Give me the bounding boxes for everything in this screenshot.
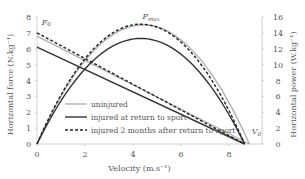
x-tick-label: 0: [34, 150, 39, 159]
right-tick-label: 2: [275, 124, 280, 133]
annotation-subscript: max: [148, 16, 160, 22]
left-tick-label: 6: [26, 45, 31, 54]
right-tick-label: 10: [273, 61, 283, 70]
x-tick-label: 8: [226, 150, 231, 159]
left-tick-label: 1: [26, 124, 31, 133]
annotation-subscript: 0: [258, 131, 262, 137]
left-tick-label: 3: [26, 92, 31, 101]
legend: uninjuredinjured at return to sportinjur…: [65, 100, 235, 135]
left-tick-label: 5: [26, 61, 31, 70]
x-axis-title: Velocity (m.s⁻¹): [107, 164, 170, 173]
chart-svg: 024680123456780246810121416Velocity (m.s…: [0, 0, 305, 179]
right-tick-label: 16: [273, 13, 283, 22]
left-tick-label: 2: [26, 108, 31, 117]
x-tick-label: 4: [130, 150, 135, 159]
annotation-2: V0: [252, 127, 262, 137]
left-axis-title: Horizontal force (N.kg⁻¹): [6, 34, 15, 135]
force-velocity-power-chart: 024680123456780246810121416Velocity (m.s…: [0, 0, 305, 179]
right-axis-title: Horizontal power (W.kg⁻¹): [289, 31, 298, 137]
annotation-subscript: 0: [47, 21, 51, 27]
right-tick-label: 12: [273, 45, 283, 54]
legend-label-0: uninjured: [91, 100, 128, 109]
legend-label-2: injured 2 months after return to sport: [91, 126, 235, 135]
annotation-0: F0: [41, 18, 52, 28]
left-tick-label: 7: [26, 29, 31, 38]
left-tick-label: 0: [26, 140, 31, 149]
right-tick-label: 0: [275, 140, 280, 149]
annotation-1: Pmax: [142, 12, 161, 22]
right-tick-label: 14: [273, 29, 283, 38]
legend-label-1: injured at return to sport: [91, 113, 187, 122]
left-tick-label: 8: [26, 13, 31, 22]
right-tick-label: 4: [275, 108, 280, 117]
left-tick-label: 4: [26, 77, 31, 86]
right-tick-label: 6: [275, 92, 280, 101]
x-tick-label: 2: [82, 150, 87, 159]
axes: 024680123456780246810121416Velocity (m.s…: [6, 13, 298, 173]
right-tick-label: 8: [275, 77, 280, 86]
x-tick-label: 6: [178, 150, 183, 159]
